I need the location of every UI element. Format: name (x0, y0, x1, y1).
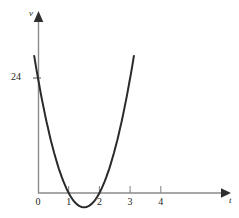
x-tick-label-2: 2 (92, 197, 106, 207)
y-tick-label-24: 24 (11, 72, 21, 82)
velocity-curve (34, 56, 134, 207)
velocity-time-graph-figure: v t 24 0 1 2 3 4 (0, 0, 239, 218)
x-axis-label: t (229, 196, 232, 205)
x-tick-label-0: 0 (31, 197, 45, 207)
x-tick-label-3: 3 (123, 197, 137, 207)
y-axis-label: v (29, 9, 33, 18)
y-axis-arrow-icon (34, 11, 44, 22)
x-tick-label-1: 1 (62, 197, 76, 207)
x-tick-label-4: 4 (154, 197, 168, 207)
plot-canvas (0, 0, 239, 218)
